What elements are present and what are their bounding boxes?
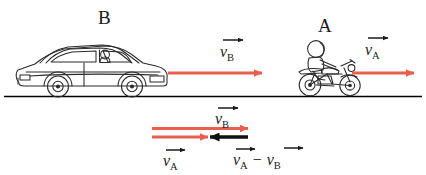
car-icon xyxy=(16,45,167,97)
vector-subscript-a: A xyxy=(240,160,248,171)
diagram-canvas xyxy=(0,0,426,175)
vector-label-v-b-bottom: vB xyxy=(215,111,229,131)
vector-label-v-a-bottom: vA xyxy=(163,153,178,173)
vector-subscript-a: A xyxy=(372,50,380,61)
vehicle-label-b: B xyxy=(98,8,111,27)
vector-subscript-a: A xyxy=(170,161,178,172)
vector-label-v-a-minus-v-b: vA−vB xyxy=(233,152,281,172)
vector-subscript-b: B xyxy=(222,119,229,130)
minus-operator: − xyxy=(248,151,267,168)
motorcycle-icon xyxy=(299,41,360,96)
vector-subscript-b: B xyxy=(227,52,234,63)
vector-symbol-v: v xyxy=(267,151,274,168)
vector-subscript-b: B xyxy=(274,160,281,171)
vector-label-v-b-top: vB xyxy=(220,44,234,64)
relative-velocity-diagram: B A vB vA vB vA vA−vB xyxy=(0,0,426,175)
vector-label-v-a-top: vA xyxy=(365,42,380,62)
vehicle-label-a: A xyxy=(318,16,332,35)
